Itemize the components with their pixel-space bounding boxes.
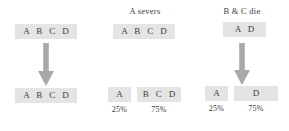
diagram-column-b-and-c-die: B & C die A D A D 25% 75% (196, 0, 288, 131)
percent-label: 25% (108, 105, 131, 115)
bottom-box: D (234, 86, 278, 101)
column-caption: A severs (99, 6, 191, 16)
column-caption: B & C die (196, 6, 288, 16)
bottom-box: B C D (137, 87, 181, 102)
diagram-canvas: A B C D A B C D A severs A B C D A B C D… (0, 0, 289, 131)
top-box: A B C D (113, 24, 175, 39)
top-box: A D (223, 22, 266, 37)
bottom-box: A B C D (15, 88, 77, 103)
diagram-column-no-break: A B C D A B C D (2, 0, 98, 131)
percent-label: 75% (234, 104, 278, 114)
down-arrow-icon (38, 43, 54, 86)
bottom-box: A (108, 87, 131, 102)
top-box: A B C D (15, 24, 77, 39)
bottom-box: A (205, 86, 228, 101)
percent-label: 25% (205, 104, 228, 114)
diagram-column-a-severs: A severs A B C D A B C D 25% 75% (99, 0, 191, 131)
percent-label: 75% (137, 105, 181, 115)
